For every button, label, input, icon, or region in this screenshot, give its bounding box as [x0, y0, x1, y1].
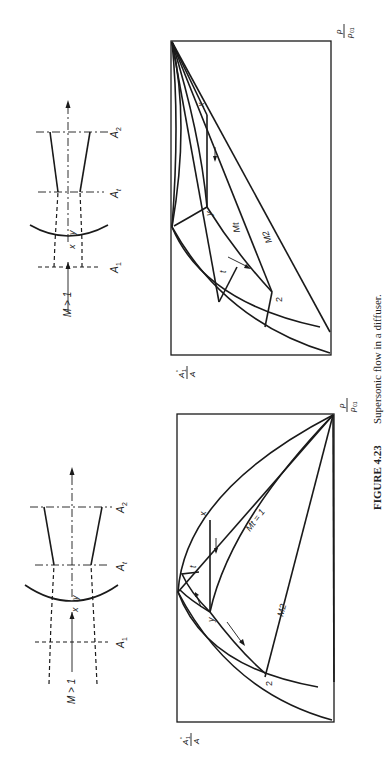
flow-arrow-icon — [66, 262, 71, 269]
point-x-label: x — [196, 102, 206, 108]
chart-frame — [171, 41, 331, 355]
y-axis-label: A * 1 A — [179, 733, 201, 746]
M2-line-label: M2 — [260, 230, 274, 245]
exit-arrow-icon — [66, 100, 71, 108]
svg-text:A: A — [109, 266, 120, 274]
svg-text:1: 1 — [121, 637, 128, 641]
upper-wall — [44, 507, 54, 565]
bottom-line — [333, 415, 334, 682]
point-y-label: y — [206, 617, 216, 623]
right-diffuser-sketch: M > 1 x y A 1 A t A 2 — [30, 100, 122, 317]
left-panel: M > 1 x y A 1 A t A 2 — [25, 398, 358, 746]
area-ratio-curve — [178, 415, 333, 720]
svg-text:A: A — [109, 191, 120, 199]
right-panel: M > 1 x y A 1 A t A 2 — [30, 24, 355, 379]
svg-text:A: A — [177, 373, 186, 379]
chart-frame — [177, 414, 334, 722]
point-2-label: 2 — [274, 297, 284, 302]
area-ratio-curve — [172, 42, 330, 353]
svg-text:A: A — [115, 641, 126, 649]
upper-wall-dashed — [49, 565, 54, 684]
upper-wall — [50, 132, 58, 192]
svg-text:01: 01 — [352, 401, 358, 407]
point-y-label: y — [204, 211, 214, 217]
y-axis-label: A * 1 A — [175, 366, 197, 379]
lower-wall — [91, 507, 102, 565]
svg-text:01: 01 — [349, 27, 355, 33]
svg-text:A: A — [115, 564, 126, 572]
shock-y-label: y — [67, 230, 77, 236]
x-axis-label: p p 01 — [334, 24, 355, 39]
y-to-2-curve — [207, 207, 272, 292]
shock-y-label: y — [70, 595, 80, 601]
svg-text:A: A — [115, 506, 126, 514]
flow-arrow-icon — [70, 612, 75, 619]
figure-page: M > 1 x y A 1 A t A 2 — [0, 0, 389, 772]
svg-text:p: p — [337, 403, 346, 409]
svg-text:2: 2 — [115, 127, 122, 131]
point-t-label: t — [218, 270, 228, 273]
lower-wall-dashed — [80, 192, 82, 267]
inlet-mach-label: M > 1 — [66, 679, 77, 704]
shock-x-label: x — [70, 607, 80, 613]
section-labels: A 1 A t A 2 — [115, 502, 128, 649]
y-to-2-curve — [210, 612, 266, 674]
svg-text:t: t — [121, 561, 128, 564]
landscape-content: M > 1 x y A 1 A t A 2 — [25, 24, 383, 746]
point-x-label: x — [198, 511, 208, 517]
figure-svg: M > 1 x y A 1 A t A 2 — [0, 0, 389, 772]
lower-wall — [80, 132, 90, 192]
Mt-line-label: Mt — [230, 221, 242, 233]
point-2-label: 2 — [264, 681, 274, 686]
inlet-mach-label: M > 1 — [62, 292, 73, 317]
arrow-icon — [213, 156, 217, 162]
left-chart: x y t 2 Mt = 1 M2 A * 1 A p p 01 — [177, 398, 358, 746]
svg-text:A: A — [109, 131, 120, 139]
svg-text:1: 1 — [181, 369, 187, 372]
svg-text:1: 1 — [185, 736, 191, 739]
lower-branch-curve — [178, 592, 318, 687]
svg-text:2: 2 — [121, 502, 128, 506]
y-subsonic-curve — [210, 415, 333, 612]
svg-text:A: A — [181, 740, 190, 746]
point-t-label: t — [188, 565, 198, 568]
upper-wall-dashed — [54, 192, 58, 267]
left-diffuser-sketch: M > 1 x y A 1 A t A 2 — [25, 467, 128, 704]
svg-text:A: A — [188, 372, 197, 378]
right-chart: x y t 2 Mt M2 A * 1 A p p 01 — [171, 24, 355, 379]
M2-line-label: M2 — [275, 603, 288, 618]
Mt-line-label: Mt = 1 — [244, 507, 267, 533]
figure-caption: FIGURE 4.23 Supersonic flow in a diffuse… — [371, 294, 383, 510]
two-segment — [265, 292, 272, 327]
bottom-line — [172, 42, 330, 332]
svg-text:A: A — [192, 739, 201, 745]
shock-x-label: x — [67, 244, 77, 250]
svg-text:1: 1 — [115, 262, 122, 266]
x-axis-label: p p 01 — [337, 398, 358, 413]
caption-text: Supersonic flow in a diffuser. — [371, 294, 383, 424]
lower-wall-dashed — [91, 565, 97, 684]
svg-text:t: t — [115, 188, 122, 191]
figure-number: FIGURE 4.23 — [371, 445, 383, 510]
svg-text:p: p — [334, 29, 343, 35]
section-labels: A 1 A t A 2 — [109, 127, 122, 274]
